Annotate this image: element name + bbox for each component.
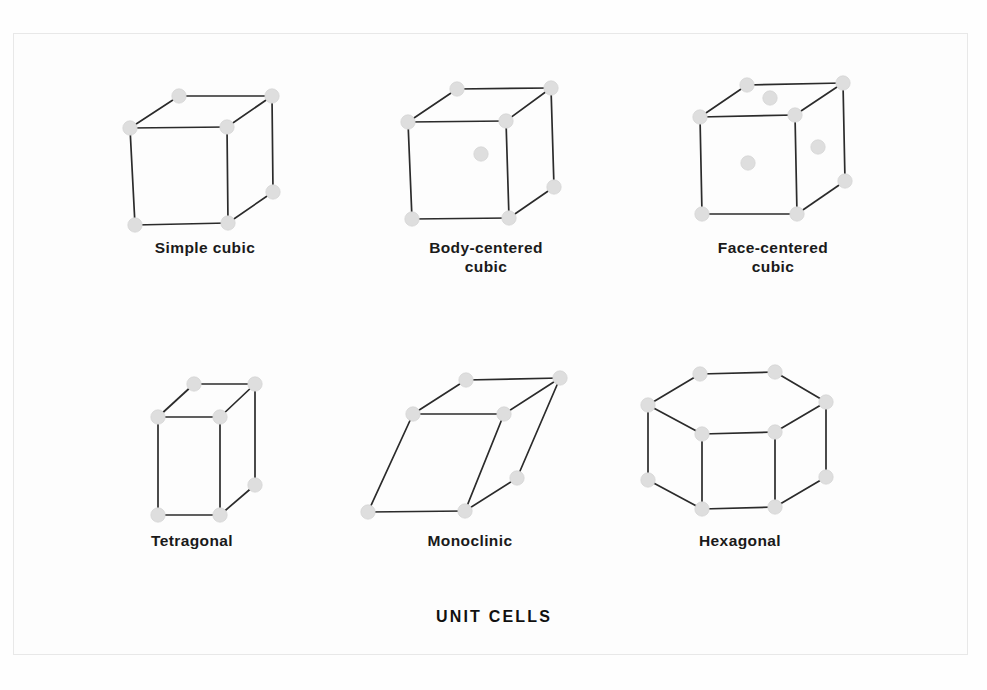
lattice-atom — [497, 407, 511, 421]
lattice-edge — [227, 127, 228, 223]
unit-cell-group — [123, 76, 852, 522]
body-center-atom — [474, 147, 488, 161]
lattice-edge — [130, 127, 227, 128]
unit-cell-tetragonal — [151, 377, 262, 522]
lattice-edge — [130, 96, 179, 128]
lattice-atom — [248, 478, 262, 492]
lattice-edge — [775, 477, 826, 507]
lattice-atom — [266, 185, 280, 199]
lattice-atom — [459, 373, 473, 387]
lattice-edge — [797, 181, 845, 214]
lattice-atom — [458, 504, 472, 518]
lattice-edge — [648, 480, 702, 509]
lattice-edge — [506, 88, 551, 121]
lattice-edge — [648, 374, 700, 405]
cell-label-line: Monoclinic — [428, 532, 513, 549]
lattice-edge — [702, 432, 775, 434]
unit-cells-diagram: Simple cubicBody-centeredcubicFace-cente… — [0, 0, 987, 690]
lattice-edge — [465, 414, 504, 511]
cell-label-line: Face-centered — [718, 239, 828, 256]
lattice-atom — [544, 81, 558, 95]
lattice-edge — [648, 405, 702, 434]
unit-cell-face-centered-cubic — [693, 76, 852, 221]
lattice-edge — [227, 96, 272, 127]
cell-label-line: Tetragonal — [151, 532, 233, 549]
lattice-atom — [693, 110, 707, 124]
lattice-edge — [413, 380, 466, 414]
lattice-atom — [123, 121, 137, 135]
unit-cell-hexagonal — [641, 365, 833, 516]
lattice-atom — [151, 508, 165, 522]
lattice-edge — [130, 128, 135, 225]
lattice-atom — [695, 207, 709, 221]
lattice-atom — [788, 108, 802, 122]
lattice-edge — [408, 89, 457, 122]
lattice-atom — [405, 212, 419, 226]
lattice-atom — [740, 78, 754, 92]
lattice-atom — [128, 218, 142, 232]
lattice-atom — [151, 410, 165, 424]
lattice-atom — [553, 371, 567, 385]
lattice-atom — [547, 180, 561, 194]
lattice-edge — [412, 218, 509, 219]
lattice-atom — [836, 76, 850, 90]
cell-label-face-centered-cubic: Face-centeredcubic — [718, 239, 828, 275]
lattice-atom — [221, 216, 235, 230]
lattice-atom — [768, 425, 782, 439]
cell-label-simple-cubic: Simple cubic — [155, 239, 255, 256]
lattice-edge — [775, 372, 826, 402]
figure-page: Simple cubicBody-centeredcubicFace-cente… — [0, 0, 987, 690]
lattice-atom — [406, 407, 420, 421]
lattice-atom — [213, 508, 227, 522]
cell-label-line: Hexagonal — [699, 532, 781, 549]
lattice-edge — [135, 223, 228, 225]
unit-cell-body-centered-cubic — [401, 81, 561, 226]
face-center-atom — [763, 91, 777, 105]
lattice-atom — [172, 89, 186, 103]
lattice-atom — [693, 367, 707, 381]
cell-label-hexagonal: Hexagonal — [699, 532, 781, 549]
cell-label-line: cubic — [752, 258, 794, 275]
cell-label-line: Simple cubic — [155, 239, 255, 256]
lattice-edge — [408, 122, 412, 219]
lattice-atom — [768, 365, 782, 379]
unit-cell-labels: Simple cubicBody-centeredcubicFace-cente… — [151, 239, 828, 549]
lattice-edge — [517, 378, 560, 478]
lattice-edge — [700, 115, 795, 117]
lattice-atom — [361, 505, 375, 519]
lattice-edge — [747, 83, 843, 85]
lattice-edge — [700, 117, 702, 214]
lattice-atom — [790, 207, 804, 221]
lattice-atom — [213, 410, 227, 424]
lattice-edge — [509, 187, 554, 218]
lattice-edge — [700, 85, 747, 117]
lattice-atom — [819, 470, 833, 484]
lattice-atom — [819, 395, 833, 409]
lattice-atom — [838, 174, 852, 188]
cell-label-line: cubic — [465, 258, 507, 275]
lattice-edge — [465, 478, 517, 511]
lattice-atom — [220, 120, 234, 134]
lattice-edge — [795, 83, 843, 115]
lattice-atom — [695, 427, 709, 441]
cell-label-line: Body-centered — [429, 239, 543, 256]
lattice-atom — [641, 398, 655, 412]
lattice-atom — [768, 500, 782, 514]
lattice-edge — [551, 88, 554, 187]
unit-cell-simple-cubic — [123, 89, 280, 232]
lattice-edge — [700, 372, 775, 374]
lattice-edge — [408, 121, 506, 122]
lattice-edge — [775, 402, 826, 432]
lattice-edge — [228, 192, 273, 223]
unit-cell-monoclinic — [361, 371, 567, 519]
lattice-atom — [265, 89, 279, 103]
lattice-edge — [368, 414, 413, 512]
lattice-atom — [641, 473, 655, 487]
lattice-atom — [510, 471, 524, 485]
lattice-edge — [702, 507, 775, 509]
lattice-atom — [502, 211, 516, 225]
lattice-atom — [695, 502, 709, 516]
lattice-edge — [457, 88, 551, 89]
lattice-edge — [368, 511, 465, 512]
cell-label-body-centered-cubic: Body-centeredcubic — [429, 239, 543, 275]
